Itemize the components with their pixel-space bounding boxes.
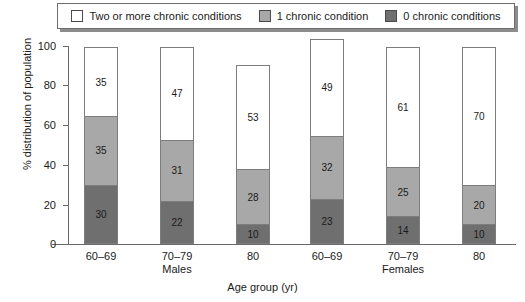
legend-item-zero: 0 chronic conditions [385,10,500,22]
segment-one: 25 [386,167,420,216]
legend-item-one: 1 chronic condition [259,10,369,22]
legend-label-two-or-more: Two or more chronic conditions [89,10,241,22]
segment-two-or-more: 53 [236,65,270,169]
segment-one: 32 [310,136,344,199]
legend-swatch-darkgray-icon [385,10,397,22]
y-tick-0 [63,244,68,245]
y-axis-title: % distribution of population [21,4,33,204]
y-tick-60 [63,125,68,126]
y-tick-label-100: 100 [30,41,56,52]
segment-one: 31 [160,140,194,201]
x-group-label-females: Females [358,263,448,276]
plot-area: 35 35 30 47 31 22 53 28 10 49 32 23 61 2… [69,47,515,244]
x-axis-line [52,244,516,245]
segment-two-or-more: 49 [310,39,344,136]
y-tick-80 [63,85,68,86]
y-tick-label-20: 20 [30,200,56,211]
bar-females-60-69[interactable]: 49 32 23 [310,39,344,244]
y-tick-label-40: 40 [30,160,56,171]
bar-females-80[interactable]: 70 20 10 [462,47,496,244]
segment-zero: 23 [310,199,344,244]
legend-item-two-or-more: Two or more chronic conditions [71,10,241,22]
legend-label-zero: 0 chronic conditions [403,10,500,22]
segment-two-or-more: 47 [160,47,194,140]
x-label-males-80: 80 [218,250,288,263]
x-group-label-males: Males [132,263,222,276]
segment-zero: 14 [386,216,420,244]
legend-label-one: 1 chronic condition [277,10,369,22]
x-label-males-70-79: 70–79 [142,250,212,263]
bar-males-60-69[interactable]: 35 35 30 [84,47,118,244]
segment-one: 35 [84,116,118,185]
legend-swatch-white-icon [71,10,83,22]
x-label-females-70-79: 70–79 [368,250,438,263]
bar-males-80[interactable]: 53 28 10 [236,65,270,244]
x-label-females-60-69: 60–69 [292,250,362,263]
y-tick-label-80: 80 [30,80,56,91]
segment-one: 28 [236,169,270,224]
y-tick-label-0: 0 [30,239,56,250]
segment-zero: 22 [160,201,194,244]
segment-two-or-more: 61 [386,47,420,167]
y-tick-40 [63,165,68,166]
legend-swatch-gray-icon [259,10,271,22]
segment-two-or-more: 70 [462,47,496,185]
segment-zero: 10 [462,224,496,244]
bar-males-70-79[interactable]: 47 31 22 [160,47,194,244]
x-label-males-60-69: 60–69 [66,250,136,263]
segment-zero: 30 [84,185,118,244]
segment-two-or-more: 35 [84,47,118,116]
legend-shadow-right [515,6,518,32]
legend: Two or more chronic conditions 1 chronic… [57,3,515,29]
segment-zero: 10 [236,224,270,244]
y-tick-100 [63,46,68,47]
segment-one: 20 [462,185,496,224]
y-tick-label-60: 60 [30,120,56,131]
x-axis-title: Age group (yr) [0,281,525,293]
bar-females-70-79[interactable]: 61 25 14 [386,47,420,244]
y-tick-20 [63,205,68,206]
x-label-females-80: 80 [444,250,514,263]
legend-shadow-bottom [60,29,518,32]
chart-root: Two or more chronic conditions 1 chronic… [0,0,525,302]
